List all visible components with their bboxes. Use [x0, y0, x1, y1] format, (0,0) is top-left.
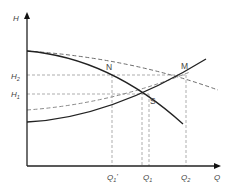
h1-label: H1 [11, 90, 20, 100]
q1-label: Q1 [143, 173, 152, 183]
x-axis-arrow-icon [214, 163, 221, 169]
q1prime-label: Q1' [107, 172, 118, 183]
h2-label: H2 [11, 72, 20, 82]
point-n-label: N [106, 62, 112, 72]
solid-pump-curve [27, 51, 183, 124]
axes [24, 12, 221, 169]
q2-label: Q2 [181, 173, 190, 183]
point-m-label: M [181, 61, 188, 71]
pump-system-curve-diagram: H Q H2 H1 Q1' Q1 Q2 N M S [0, 0, 239, 195]
guide-lines [27, 75, 186, 166]
y-axis-arrow-icon [24, 12, 30, 19]
y-axis-label: H [13, 14, 19, 23]
point-s-label: S [150, 96, 156, 106]
x-axis-label: Q [214, 173, 220, 182]
solid-system-curve [27, 59, 206, 122]
dashed-system-curve [27, 72, 190, 110]
dashed-pump-curve [27, 51, 218, 90]
